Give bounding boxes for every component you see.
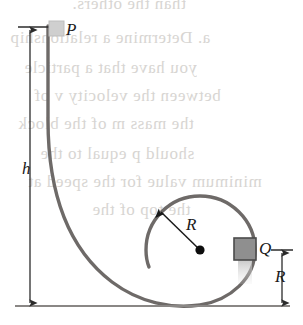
loop-center-dot: [195, 245, 204, 254]
loop-block-sheen: [238, 258, 252, 284]
radius-label: R: [186, 216, 196, 233]
start-block-label: P: [66, 21, 76, 38]
radius-dimension: [161, 212, 205, 255]
loop-height-label: R: [275, 268, 285, 285]
track-path: [48, 26, 255, 306]
loop-block: [234, 238, 256, 260]
loop-block-label: Q: [259, 240, 271, 257]
figure-vector-layer: [0, 0, 303, 325]
height-dimension-label: h: [22, 160, 31, 177]
start-block: [49, 21, 64, 36]
physics-figure: than the others. a. Determine a relation…: [0, 0, 303, 325]
